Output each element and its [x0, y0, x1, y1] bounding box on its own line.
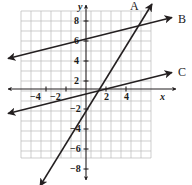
x-axis-label: x — [160, 92, 165, 102]
y-tick-label-neg4: −4 — [70, 124, 81, 134]
y-tick-label-4: 4 — [74, 56, 79, 66]
x-tick-label-2: 2 — [104, 92, 109, 102]
y-tick-label-2: 2 — [74, 76, 79, 86]
y-tick-label-8: 8 — [74, 16, 79, 26]
y-tick-label-neg6: −6 — [70, 144, 81, 154]
line-label-a: A — [130, 0, 139, 12]
line-label-b: B — [178, 13, 186, 25]
line-b — [8, 18, 172, 59]
y-axis-label: y — [78, 2, 82, 12]
line-label-c: C — [178, 66, 186, 78]
graph-figure: −4 −2 2 4 8 6 4 2 −2 −4 −6 −8 y x A B C — [0, 0, 192, 185]
x-tick-label-neg2: −2 — [50, 92, 61, 102]
x-tick-label-4: 4 — [124, 92, 129, 102]
y-tick-label-neg2: −2 — [70, 104, 81, 114]
x-tick-label-neg4: −4 — [30, 92, 41, 102]
y-tick-label-neg8: −8 — [70, 164, 81, 174]
y-tick-label-6: 6 — [74, 36, 79, 46]
